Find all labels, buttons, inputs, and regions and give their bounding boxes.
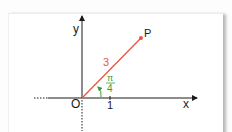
diagram-stage: y x O 1 P 3 π 4: [0, 0, 232, 132]
angle-arc-arrow: [98, 87, 101, 97]
x-axis-label: x: [183, 97, 189, 111]
point-p-marker: [139, 36, 143, 40]
y-axis-label: y: [73, 22, 79, 36]
radius-label: 3: [103, 56, 109, 68]
tick-label-1: 1: [107, 99, 113, 111]
polar-diagram: y x O 1 P 3 π 4: [0, 0, 232, 132]
angle-denominator: 4: [107, 83, 113, 94]
origin-label: O: [71, 97, 80, 111]
angle-numerator: π: [107, 73, 113, 83]
point-p-label: P: [144, 27, 151, 39]
